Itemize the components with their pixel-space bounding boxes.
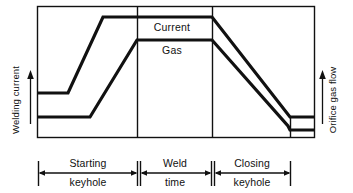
arrow-right-icon: [205, 170, 212, 176]
span-closing-keyhole: Closing keyhole: [215, 157, 291, 188]
up-arrow-icon: [27, 70, 34, 79]
span-label-line1: Weld: [163, 157, 187, 169]
span-weld-time: Weld time: [141, 157, 212, 188]
up-arrow-icon-right: [319, 70, 326, 79]
right-axis-group: Orifice gas flow: [319, 67, 338, 134]
arrow-left-icon: [215, 170, 222, 176]
diagram-canvas: Current Gas Welding current Orifice gas …: [0, 0, 353, 193]
arrow-left-icon: [141, 170, 148, 176]
span-label-line2: keyhole: [70, 176, 107, 188]
gas-curve-label: Gas: [162, 44, 182, 56]
arrow-left-icon: [39, 170, 46, 176]
span-label-line1: Starting: [70, 157, 107, 169]
arrow-right-icon: [284, 170, 291, 176]
left-axis-label: Welding current: [10, 66, 21, 134]
span-label-line2: time: [165, 176, 185, 188]
arrow-right-icon: [131, 170, 138, 176]
right-axis-label: Orifice gas flow: [327, 67, 338, 134]
span-label-line1: Closing: [234, 157, 270, 169]
welding-diagram-figure: Current Gas Welding current Orifice gas …: [0, 0, 353, 193]
span-label-line2: keyhole: [234, 176, 271, 188]
current-curve-label: Current: [154, 21, 190, 33]
left-axis-group: Welding current: [10, 66, 34, 134]
span-starting-keyhole: Starting keyhole: [39, 157, 138, 188]
